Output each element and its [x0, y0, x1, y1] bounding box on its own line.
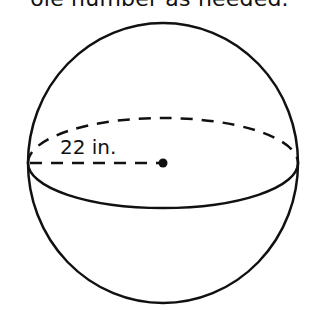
center-point [159, 159, 168, 168]
radius-label: 22 in. [60, 135, 116, 159]
sphere-diagram: 22 in. [0, 0, 319, 310]
equator-front-solid [28, 163, 298, 208]
